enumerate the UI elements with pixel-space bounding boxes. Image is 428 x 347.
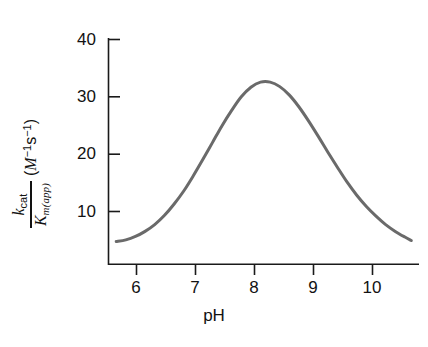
x-tick-label-8: 8 [240, 278, 268, 298]
y-axis-ticks [109, 40, 121, 212]
x-tick-label-6: 6 [122, 278, 150, 298]
x-axis-ticks [137, 264, 373, 275]
y-tick-label-10: 10 [62, 202, 96, 222]
y-tick-label-30: 30 [62, 87, 96, 107]
x-tick-label-7: 7 [181, 278, 209, 298]
figure-container: 40 30 20 10 6 7 8 9 10 pH kcat Km(app) (… [0, 0, 428, 347]
x-tick-label-9: 9 [299, 278, 327, 298]
y-tick-label-20: 20 [62, 144, 96, 164]
x-tick-label-10: 10 [358, 278, 386, 298]
y-tick-label-40: 40 [62, 30, 96, 50]
x-axis-label: pH [0, 306, 428, 326]
data-curve [116, 82, 411, 242]
